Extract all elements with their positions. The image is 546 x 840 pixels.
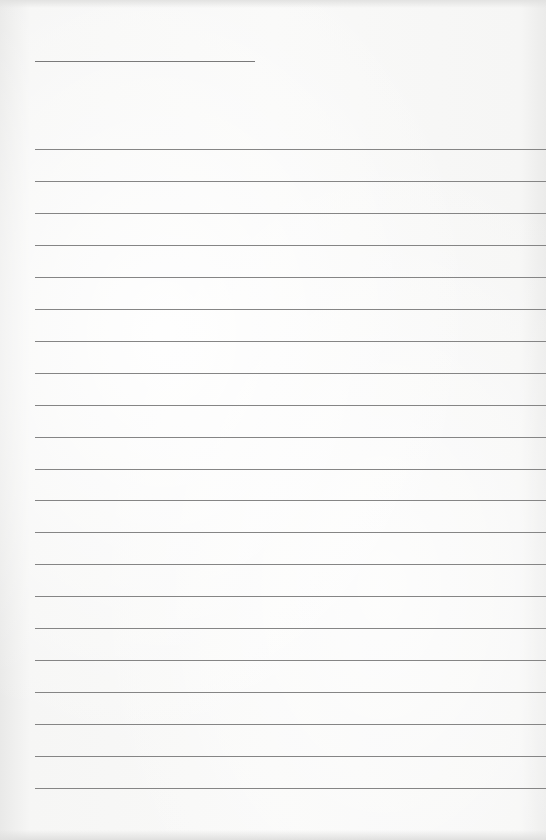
ruled-line	[35, 469, 546, 470]
ruled-line	[35, 277, 546, 278]
ruled-line	[35, 564, 546, 565]
ruled-line	[35, 213, 546, 214]
ruled-line	[35, 309, 546, 310]
ruled-line	[35, 437, 546, 438]
ruled-line	[35, 596, 546, 597]
ruled-line	[35, 373, 546, 374]
title-underline	[35, 61, 255, 62]
ruled-line	[35, 756, 546, 757]
ruled-line	[35, 341, 546, 342]
ruled-line	[35, 181, 546, 182]
ruled-line	[35, 245, 546, 246]
ruled-line	[35, 628, 546, 629]
ruled-line	[35, 500, 546, 501]
ruled-line	[35, 149, 546, 150]
lined-paper-sheet	[0, 0, 546, 840]
ruled-line	[35, 724, 546, 725]
ruled-line	[35, 692, 546, 693]
ruled-line	[35, 405, 546, 406]
ruled-line	[35, 532, 546, 533]
ruled-line	[35, 788, 546, 789]
ruled-line	[35, 660, 546, 661]
